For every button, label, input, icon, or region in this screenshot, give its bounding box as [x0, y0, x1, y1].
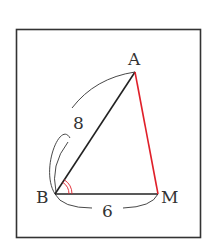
ab-brace-arc-2	[72, 72, 135, 108]
bm-brace-arc-1	[55, 194, 92, 208]
segment-am	[135, 72, 158, 194]
label-bm-length: 6	[102, 201, 113, 221]
label-b: B	[36, 187, 49, 207]
angle-b-arc-inner	[63, 182, 69, 194]
label-a: A	[127, 49, 141, 69]
angle-b-arc-outer	[64, 180, 72, 194]
label-m: M	[161, 187, 178, 207]
geometry-diagram: A B M 8 6	[0, 0, 215, 243]
bm-brace-arc-2	[123, 194, 158, 208]
label-ab-length: 8	[73, 113, 84, 133]
segment-ab	[55, 72, 135, 194]
